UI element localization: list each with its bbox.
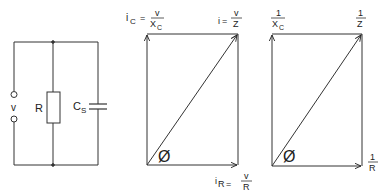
capacitor-label: C	[73, 100, 81, 112]
bc-label-den: X	[272, 19, 278, 29]
ir-label-prefix: i	[215, 176, 217, 186]
i-label-prefix: i	[218, 16, 220, 26]
circuit-wire-left-bottom	[14, 109, 98, 165]
ir-label-sub: R	[218, 179, 225, 189]
parallel-rc-circuit	[11, 41, 107, 167]
y-label-den: Z	[357, 19, 363, 29]
ic-label-den-sub: C	[157, 24, 162, 31]
ir-label-eq: =	[226, 179, 231, 189]
ir-label-den: R	[243, 182, 250, 192]
junction-bottom	[52, 164, 55, 167]
ic-label-num: v	[155, 8, 160, 18]
diagram-canvas: v R C S i C = v X C i = v Z Ø i R = v R …	[0, 0, 383, 196]
i-label-num: v	[234, 8, 239, 18]
circuit-wire-left-top	[14, 42, 98, 104]
resistor-label: R	[35, 102, 43, 114]
junction-top	[52, 41, 55, 44]
ir-label-num: v	[244, 171, 249, 181]
terminal-bottom	[11, 116, 17, 122]
ic-label-eq: =	[140, 13, 145, 23]
i-label-den: Z	[233, 19, 239, 29]
g-label-num: 1	[370, 152, 375, 162]
angle-label-current: Ø	[158, 148, 170, 165]
resistor	[47, 92, 60, 123]
i-vector	[147, 35, 237, 165]
y-label-num: 1	[358, 8, 363, 18]
g-label-den: R	[369, 163, 376, 173]
y-vector	[272, 35, 361, 166]
ic-label-prefix: i	[126, 12, 128, 23]
source-label: v	[11, 102, 16, 113]
capacitor-subscript: S	[81, 106, 86, 115]
admittance-phasor-diagram	[272, 34, 362, 166]
bc-label-num: 1	[276, 8, 281, 18]
ic-label-den: X	[150, 19, 156, 29]
ic-label-sub: C	[130, 17, 136, 26]
angle-label-admittance: Ø	[283, 148, 295, 165]
terminal-top	[11, 92, 17, 98]
current-phasor-diagram	[147, 34, 238, 165]
i-label-eq: =	[222, 16, 227, 26]
bc-label-den-sub: C	[279, 24, 284, 31]
